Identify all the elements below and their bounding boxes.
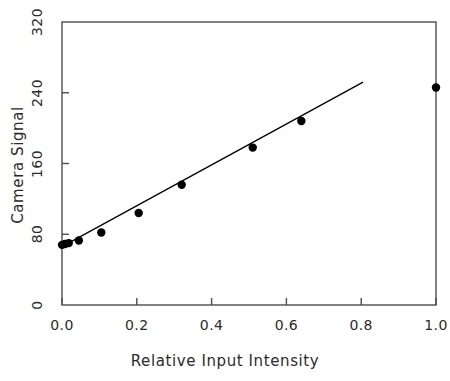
y-tick-label-wrap-2: 160 (20, 156, 54, 172)
y-tick-label-4: 320 (29, 8, 45, 36)
x-tick-label-0: 0.0 (50, 317, 73, 333)
data-point (249, 143, 257, 151)
y-tick-label-2: 160 (29, 150, 45, 178)
y-tick-label-wrap-4: 320 (20, 14, 54, 30)
x-tick-label-5: 1.0 (424, 317, 447, 333)
data-point (177, 181, 185, 189)
y-tick-label-wrap-1: 80 (20, 226, 54, 242)
x-tick-label-1: 0.2 (125, 317, 148, 333)
data-point (134, 209, 142, 217)
plot-frame (62, 22, 436, 305)
data-point (75, 236, 83, 244)
x-tick-label-4: 0.8 (349, 317, 372, 333)
data-point (97, 228, 105, 236)
x-axis-title: Relative Input Intensity (0, 352, 450, 370)
data-point (432, 83, 440, 91)
y-tick-label-3: 240 (29, 79, 45, 107)
y-tick-label-1: 80 (29, 225, 45, 244)
y-tick-label-wrap-0: 0 (20, 297, 54, 313)
x-tick-label-2: 0.4 (200, 317, 223, 333)
y-tick-label-0: 0 (29, 300, 45, 309)
x-tick-label-3: 0.6 (275, 317, 298, 333)
chart-container: Camera Signal Relative Input Intensity 0… (0, 0, 450, 381)
y-tick-label-wrap-3: 240 (20, 85, 54, 101)
data-point (65, 239, 73, 247)
data-point (297, 117, 305, 125)
